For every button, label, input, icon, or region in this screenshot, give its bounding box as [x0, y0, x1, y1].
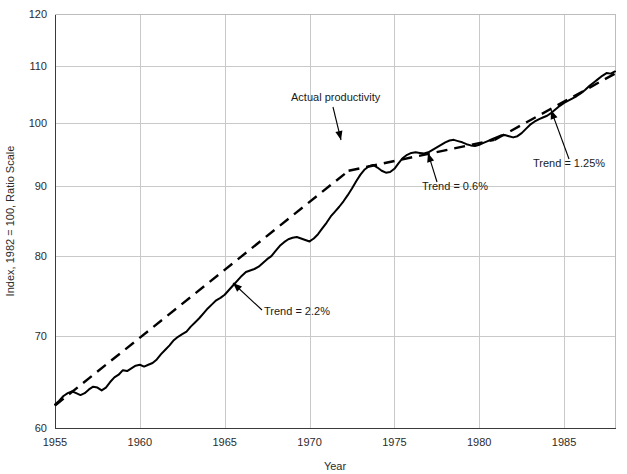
trend-line: [349, 140, 495, 171]
y-tick-label: 80: [35, 250, 47, 262]
trend-line: [495, 74, 615, 140]
y-tick-label: 90: [35, 180, 47, 192]
annotation-label: Trend = 0.6%: [422, 180, 488, 192]
chart-series-layer: [55, 71, 615, 405]
trend-line: [55, 171, 349, 406]
x-tick-label: 1965: [212, 436, 236, 448]
x-tick-label: 1960: [128, 436, 152, 448]
annotation-label: Actual productivity: [291, 91, 381, 103]
chart-canvas: 6070809010011012019551960196519701975198…: [0, 0, 627, 474]
x-tick-label: 1955: [43, 436, 67, 448]
annotation-label: Trend = 2.2%: [264, 305, 330, 317]
x-tick-label: 1970: [297, 436, 321, 448]
leader-trend-0-6-arrowhead: [427, 153, 434, 163]
y-tick-label: 70: [35, 330, 47, 342]
actual-productivity-line: [55, 71, 615, 404]
x-tick-label: 1985: [552, 436, 576, 448]
x-tick-label: 1980: [467, 436, 491, 448]
leader-actual-productivity-arrowhead: [335, 130, 342, 140]
productivity-chart: 6070809010011012019551960196519701975198…: [0, 0, 627, 474]
chart-frame: [56, 15, 616, 429]
chart-annotations: Actual productivityTrend = 2.2%Trend = 0…: [233, 91, 605, 317]
x-tick-label: 1975: [382, 436, 406, 448]
y-tick-label: 110: [29, 60, 47, 72]
y-tick-label: 100: [29, 117, 47, 129]
y-axis-label: Index, 1982 = 100, Ratio Scale: [4, 146, 16, 297]
y-tick-label: 120: [29, 8, 47, 20]
y-tick-label: 60: [35, 422, 47, 434]
x-axis-label: Year: [324, 460, 347, 472]
